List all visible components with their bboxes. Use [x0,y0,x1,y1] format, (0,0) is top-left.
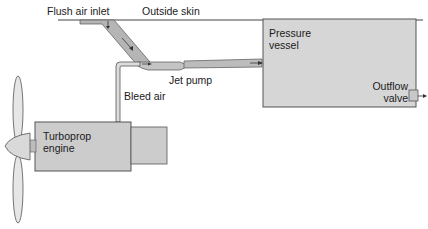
flush-air-inlet-duct [80,20,150,66]
label-outflow-1: Outflow [372,80,408,92]
propeller-spinner [5,133,30,160]
propeller-blade-top [13,76,23,144]
label-flush-air-inlet: Flush air inlet [47,5,109,17]
jet-pump-body [138,62,186,70]
label-bleed-air: Bleed air [124,90,165,102]
diagram-canvas [0,0,428,229]
propeller-blade-bottom [13,155,23,223]
engine-rear-section [131,127,167,164]
label-jet-pump: Jet pump [169,74,212,86]
label-pressure-vessel-1: Pressure [269,27,311,39]
outflow-arrowhead-icon [423,94,427,98]
label-turboprop-1: Turboprop [43,130,91,142]
label-turboprop-2: engine [43,142,75,154]
label-outflow-2: valve [383,92,408,104]
label-outside-skin: Outside skin [142,5,200,17]
label-pressure-vessel-2: vessel [269,39,299,51]
outflow-valve [409,90,418,101]
diffuser-tube [184,59,262,68]
